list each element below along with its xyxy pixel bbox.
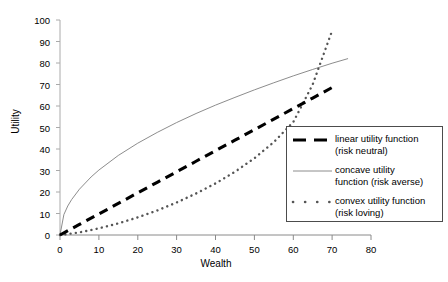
x-tick-marks bbox=[60, 235, 371, 240]
x-axis-title: Wealth bbox=[60, 258, 372, 269]
x-tick-label: 40 bbox=[202, 245, 230, 255]
legend-label-concave: concave utility function (risk averse) bbox=[335, 160, 423, 187]
y-tick-label: 0 bbox=[22, 231, 50, 241]
chart-legend: linear utility function (risk neutral) c… bbox=[286, 126, 443, 222]
legend-label-convex: convex utility function (risk loving) bbox=[335, 191, 425, 218]
chart-container: 0 10 20 30 40 50 60 70 80 90 100 0 10 20… bbox=[0, 0, 448, 282]
y-tick-label: 60 bbox=[22, 102, 50, 112]
x-tick-label: 20 bbox=[124, 245, 152, 255]
legend-swatch-concave bbox=[291, 160, 335, 186]
legend-item-concave: concave utility function (risk averse) bbox=[287, 160, 442, 192]
x-tick-label: 0 bbox=[46, 245, 74, 255]
y-tick-label: 100 bbox=[22, 16, 50, 26]
x-tick-label: 10 bbox=[85, 245, 113, 255]
legend-swatch-linear bbox=[291, 129, 335, 155]
x-tick-label: 60 bbox=[279, 245, 307, 255]
legend-item-convex: convex utility function (risk loving) bbox=[287, 191, 442, 223]
y-tick-label: 10 bbox=[22, 210, 50, 220]
y-tick-label: 80 bbox=[22, 59, 50, 69]
legend-swatch-convex bbox=[291, 191, 335, 217]
y-tick-marks bbox=[56, 20, 60, 235]
y-tick-label: 50 bbox=[22, 124, 50, 134]
x-tick-label: 30 bbox=[163, 245, 191, 255]
x-tick-label: 80 bbox=[357, 245, 385, 255]
x-tick-label: 50 bbox=[240, 245, 268, 255]
y-tick-label: 70 bbox=[22, 81, 50, 91]
y-tick-label: 30 bbox=[22, 167, 50, 177]
y-tick-label: 20 bbox=[22, 188, 50, 198]
legend-item-linear: linear utility function (risk neutral) bbox=[287, 129, 442, 161]
y-tick-label: 90 bbox=[22, 38, 50, 48]
y-axis-title: Utility bbox=[10, 94, 21, 150]
x-tick-label: 70 bbox=[318, 245, 346, 255]
y-tick-label: 40 bbox=[22, 145, 50, 155]
legend-label-linear: linear utility function (risk neutral) bbox=[335, 129, 418, 156]
